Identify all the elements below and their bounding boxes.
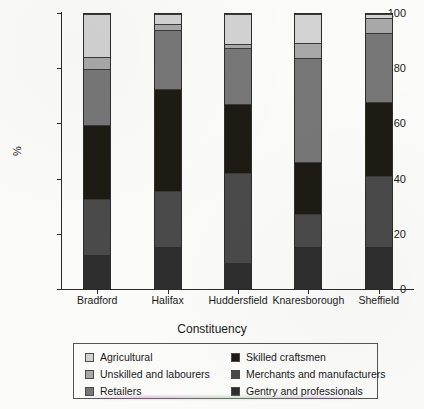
bar-segment [366,102,392,176]
y-tick-label: 20 [394,228,406,239]
y-tick [57,68,62,69]
legend-item[interactable]: Gentry and professionals [231,383,385,399]
bar-halifax[interactable] [154,13,182,289]
bar-segment [295,43,321,58]
bar-segment [84,199,110,255]
legend-item[interactable]: Retailers [85,383,210,399]
bar-segment [225,48,251,104]
bar-segment [366,176,392,247]
bar-segment [295,14,321,43]
stacked-bar-chart: % Constituency 020406080100 BradfordHali… [0,0,424,409]
legend-column-left: AgriculturalUnskilled and labourersRetai… [85,349,210,400]
bar-segment [155,247,181,288]
y-tick-label: 60 [394,118,406,129]
legend-column-right: Skilled craftsmenMerchants and manufactu… [231,349,385,400]
bar-segment [155,30,181,89]
bar-segment [295,214,321,247]
legend-swatch-icon [231,353,240,362]
legend-swatch-icon [231,370,240,379]
bar-segment [295,58,321,162]
x-tick-label-halifax: Halifax [152,294,184,306]
bar-huddersfield[interactable] [224,13,252,289]
bar-segment [225,173,251,263]
legend-label: Gentry and professionals [246,385,363,397]
bar-segment [84,69,110,125]
y-tick [57,13,62,14]
legend-label: Skilled craftsmen [246,351,326,363]
y-tick-label: 40 [394,173,406,184]
y-tick [57,179,62,180]
bar-segment [155,14,181,24]
x-tick-label-huddersfield: Huddersfield [209,294,268,306]
y-tick-label: 80 [394,63,406,74]
legend-label: Unskilled and labourers [100,368,210,380]
x-tick-label-bradford: Bradford [77,294,117,306]
bar-segment [295,247,321,288]
x-tick-label-sheffield: Sheffield [358,294,399,306]
bar-segment [84,255,110,288]
y-tick-label: 0 [400,284,406,295]
legend-swatch-icon [85,387,94,396]
bar-segment [295,162,321,214]
bar-segment [366,247,392,288]
y-tick [57,289,62,290]
legend-item[interactable]: Agricultural [85,349,210,365]
bar-sheffield[interactable] [365,13,393,289]
y-axis-title: % [11,146,23,156]
legend-label: Agricultural [100,351,153,363]
legend-label: Merchants and manufacturers [246,368,385,380]
plot-area: 020406080100 [62,13,414,289]
bar-segment [84,125,110,199]
bar-segment [84,14,110,56]
legend-item[interactable]: Unskilled and labourers [85,366,210,382]
x-tick-label-knaresborough: Knaresborough [272,294,344,306]
bar-bradford[interactable] [83,13,111,289]
legend-item[interactable]: Skilled craftsmen [231,349,385,365]
bar-knaresborough[interactable] [294,13,322,289]
bar-segment [155,89,181,190]
y-tick [57,234,62,235]
legend-item[interactable]: Merchants and manufacturers [231,366,385,382]
x-axis-title: Constituency [0,322,424,336]
bar-segment [225,104,251,173]
y-tick [57,123,62,124]
bar-segment [225,14,251,44]
bar-segment [155,24,181,31]
bar-segment [155,191,181,247]
bar-segment [366,18,392,33]
legend-label: Retailers [100,385,141,397]
bar-segment [84,57,110,69]
legend-swatch-icon [231,387,240,396]
legend-swatch-icon [85,370,94,379]
legend-swatch-icon [85,353,94,362]
bar-segment [225,263,251,288]
bar-segment [366,33,392,102]
chart-legend: AgriculturalUnskilled and labourersRetai… [73,343,378,399]
